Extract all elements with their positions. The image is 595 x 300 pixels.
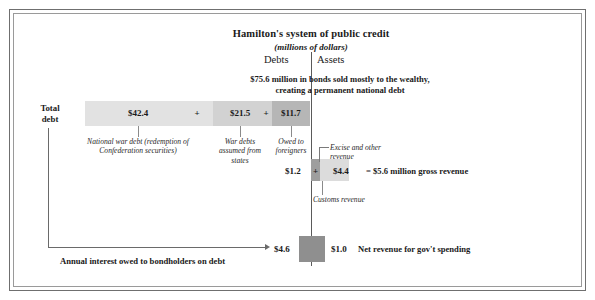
debt-plus-1: + [194,108,199,118]
total-debt-connector-vertical [48,128,49,248]
debt-caption-tick-states [240,126,241,137]
axis-label-debts: Debts [264,54,289,65]
debt-caption-tick-foreign [291,126,292,137]
debt-caption-national: National war debt (redemption of Confede… [70,137,206,156]
net-revenue-note: Net revenue for gov't spending [358,244,470,254]
revenue-value-customs: $1.2 [285,166,301,176]
debt-plus-2: + [263,108,268,118]
debt-lead-text: $75.6 million in bonds sold mostly to th… [200,74,480,96]
interest-net-box [299,236,325,262]
gross-revenue-note: = $5.6 million gross revenue [366,166,468,176]
revenue-value-excise: $4.4 [333,166,349,176]
figure-canvas: Hamilton's system of public credit (mill… [0,0,595,300]
total-debt-connector-horizontal [48,247,266,248]
figure-title: Hamilton's system of public credit [233,28,390,39]
net-revenue-value: $1.0 [331,244,347,254]
figure-subtitle: (millions of dollars) [274,42,348,52]
debt-value-national: $42.4 [128,108,148,118]
axis-label-assets: Assets [317,54,344,65]
debt-caption-states: War debts assumed from states [211,137,269,165]
interest-note: Annual interest owed to bondholders on d… [60,256,225,266]
revenue-plus: + [313,166,318,176]
debt-value-foreign: $11.7 [281,108,301,118]
excise-bracket [319,147,329,162]
customs-caption-tick [322,181,323,195]
revenue-caption-excise: Excise and other revenue [330,143,400,162]
total-debt-label: Total debt [26,103,74,124]
interest-arrow-icon [265,244,270,250]
debt-caption-tick-national [138,126,139,137]
total-debt-label-line1: Total [40,103,59,113]
total-debt-label-line2: debt [42,114,59,124]
revenue-caption-customs: Customs revenue [313,195,369,204]
debt-caption-foreign: Owed to foreigners [270,137,312,156]
debt-value-states: $21.5 [230,108,250,118]
interest-value: $4.6 [274,244,290,254]
